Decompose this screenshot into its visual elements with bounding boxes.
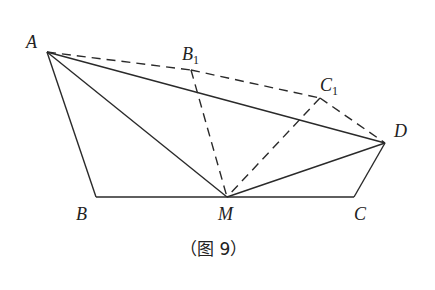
segment-B1M-dashed	[191, 70, 227, 197]
label-A: A	[25, 32, 38, 52]
segment-MD	[227, 143, 385, 197]
segment-C1D-dashed	[320, 98, 385, 143]
segment-AB1-dashed	[47, 52, 191, 70]
label-M: M	[217, 204, 234, 224]
segment-AM	[47, 52, 227, 197]
segment-AB	[47, 52, 96, 197]
geometry-diagram: A B1 C1 D B M C （图 9）	[0, 0, 435, 290]
label-C: C	[354, 204, 367, 224]
label-B1: B1	[182, 44, 199, 67]
label-C1: C1	[320, 75, 338, 98]
segment-CD	[354, 143, 385, 197]
figure-caption: （图 9）	[180, 239, 247, 259]
segment-B1C1-dashed	[191, 70, 320, 98]
label-B: B	[76, 204, 87, 224]
label-D: D	[393, 121, 407, 141]
